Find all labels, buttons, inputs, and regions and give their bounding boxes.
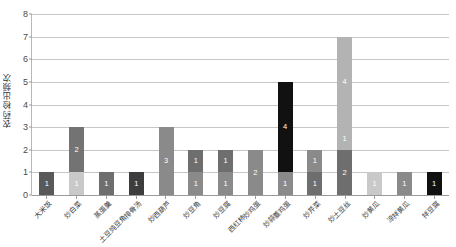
bar-segment[interactable]: 1 (367, 172, 382, 195)
y-tick-label: 6 (23, 54, 32, 64)
y-tick-label: 5 (23, 77, 32, 87)
x-tick-label: 拌豆腐 (419, 198, 441, 220)
x-tick-label: 炒豆腐 (210, 198, 232, 220)
bar-stack[interactable]: 14 (278, 82, 293, 195)
bar-slot: 1 (92, 14, 122, 195)
bar-stack[interactable]: 1 (367, 172, 382, 195)
bar-segment[interactable]: 2 (248, 150, 263, 195)
y-tick-label: 2 (23, 145, 32, 155)
x-label-slot: 炒黄瓜 (359, 196, 389, 247)
bar-slot: 11 (300, 14, 330, 195)
bar-stack[interactable]: 3 (159, 127, 174, 195)
bar-slot: 2 (240, 14, 270, 195)
bar-slot: 12 (62, 14, 92, 195)
x-tick-label: 炒西葫芦 (146, 198, 173, 225)
x-label-slot: 凉拌黄瓜 (389, 196, 419, 247)
x-label-slot: 炒土豆丝 (330, 196, 360, 247)
bar-segment[interactable]: 1 (99, 172, 114, 195)
x-tick-label: 蒸蛋羹 (91, 198, 113, 220)
x-label-slot: 拌豆腐 (419, 196, 449, 247)
x-tick-label: 大米饭 (31, 198, 53, 220)
bar-segment[interactable]: 1 (218, 150, 233, 173)
x-axis-labels: 大米饭炒白菜蒸蛋羹土豆炖豆角排骨汤炒西葫芦炒豆角炒豆腐西红柿炒鸡蛋炒蒜薹鸡蛋炒芹… (31, 196, 449, 247)
x-tick-label: 炒黄瓜 (360, 198, 382, 220)
x-label-slot: 大米饭 (31, 196, 61, 247)
bar-segment[interactable]: 4 (337, 37, 352, 128)
bar-stack[interactable]: 1 (427, 172, 442, 195)
bar-slot: 1 (389, 14, 419, 195)
bar-slot: 1 (419, 14, 449, 195)
x-tick-label: 炒豆角 (180, 198, 202, 220)
bar-segment[interactable]: 1 (69, 172, 84, 195)
bar-stack[interactable]: 1 (129, 172, 144, 195)
bar-slot: 1 (121, 14, 151, 195)
bar-stack[interactable]: 214 (337, 37, 352, 195)
bar-stack[interactable]: 1 (99, 172, 114, 195)
bar-slot: 214 (330, 14, 360, 195)
bar-segment[interactable]: 1 (188, 172, 203, 195)
bar-slot: 11 (181, 14, 211, 195)
bar-slot: 11 (211, 14, 241, 195)
bar-stack[interactable]: 11 (218, 150, 233, 195)
bar-segment[interactable]: 1 (278, 172, 293, 195)
bar-segment[interactable]: 1 (337, 127, 352, 150)
bar-chart: 农药检出频次 012345678 112113111121411214111 大… (0, 0, 456, 247)
bar-segment[interactable]: 1 (307, 172, 322, 195)
bar-stack[interactable]: 1 (39, 172, 54, 195)
x-label-slot: 炒芹菜 (300, 196, 330, 247)
x-label-slot: 炒豆角 (180, 196, 210, 247)
x-label-slot: 土豆炖豆角排骨汤 (121, 196, 151, 247)
x-tick-label: 炒白菜 (61, 198, 83, 220)
bar-stack[interactable]: 1 (397, 172, 412, 195)
bar-segment[interactable]: 2 (69, 127, 84, 172)
bar-slot: 14 (270, 14, 300, 195)
bar-stack[interactable]: 11 (188, 150, 203, 195)
bar-segment[interactable]: 3 (159, 127, 174, 195)
bar-segment[interactable]: 1 (397, 172, 412, 195)
x-label-slot: 炒西葫芦 (150, 196, 180, 247)
x-label-slot: 炒白菜 (61, 196, 91, 247)
bar-slot: 1 (32, 14, 62, 195)
y-tick-label: 4 (23, 100, 32, 110)
bar-stack[interactable]: 2 (248, 150, 263, 195)
bar-series-container: 112113111121411214111 (32, 14, 449, 195)
y-tick-label: 8 (23, 9, 32, 19)
bar-segment[interactable]: 1 (129, 172, 144, 195)
x-tick-label: 凉拌黄瓜 (384, 198, 411, 225)
bar-segment[interactable]: 1 (39, 172, 54, 195)
bar-segment[interactable]: 2 (337, 150, 352, 195)
bar-segment[interactable]: 1 (188, 150, 203, 173)
y-tick-label: 1 (23, 167, 32, 177)
bar-stack[interactable]: 12 (69, 127, 84, 195)
bar-segment[interactable]: 1 (307, 150, 322, 173)
bar-segment[interactable]: 1 (427, 172, 442, 195)
x-tick-label: 炒土豆丝 (325, 198, 352, 225)
plot-area: 012345678 112113111121411214111 (31, 14, 449, 195)
bar-segment[interactable]: 1 (218, 172, 233, 195)
y-axis-title: 农药检出频次 (0, 0, 16, 200)
bar-slot: 3 (151, 14, 181, 195)
y-tick-label: 3 (23, 122, 32, 132)
bar-slot: 1 (360, 14, 390, 195)
bar-segment[interactable]: 4 (278, 82, 293, 173)
x-label-slot: 炒蒜薹鸡蛋 (270, 196, 300, 247)
bar-stack[interactable]: 11 (307, 150, 322, 195)
y-tick-label: 7 (23, 32, 32, 42)
x-tick-label: 炒芹菜 (300, 198, 322, 220)
